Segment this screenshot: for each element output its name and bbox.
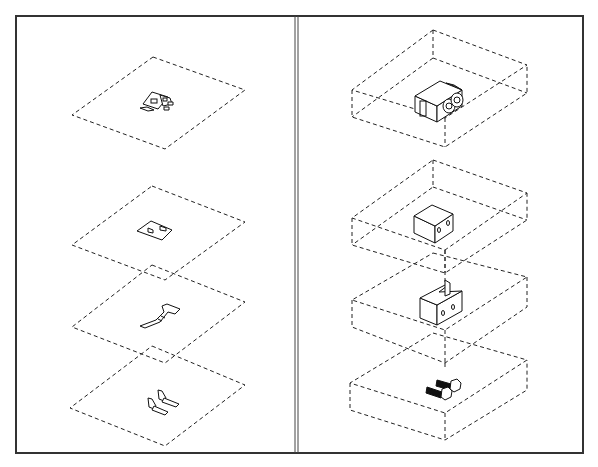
layer-plane-1 xyxy=(72,57,245,149)
layer-plane-3 xyxy=(72,265,245,363)
l-bracket-icon xyxy=(420,280,462,325)
hex-bolts-icon xyxy=(426,379,461,400)
part-box-2 xyxy=(352,160,527,273)
assembly-outline-icon xyxy=(140,92,173,111)
right-panel xyxy=(350,30,527,440)
part-box-3 xyxy=(352,250,527,363)
bracket-outline-icon xyxy=(140,304,180,328)
layer-plane-2 xyxy=(72,186,245,280)
assembled-block-icon xyxy=(415,81,463,122)
block-outline-icon xyxy=(137,221,172,240)
part-box-4 xyxy=(350,333,527,440)
left-panel xyxy=(70,57,245,446)
outer-frame xyxy=(16,16,583,453)
part-box-1 xyxy=(352,30,527,147)
bolts-outline-icon xyxy=(148,390,179,415)
block-part-icon xyxy=(414,205,453,243)
layer-plane-4 xyxy=(70,346,245,446)
assembly-diagram xyxy=(0,0,598,467)
